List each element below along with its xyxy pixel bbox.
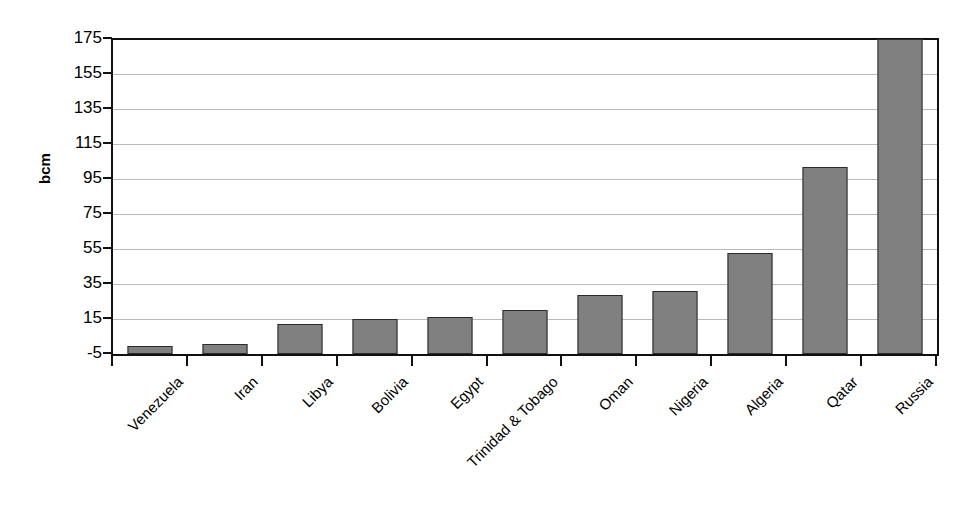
x-tick-mark xyxy=(935,355,937,366)
bar-slot xyxy=(562,39,637,354)
x-tick-mark xyxy=(411,355,413,366)
x-tick-mark xyxy=(785,355,787,366)
bar-slot xyxy=(637,39,712,354)
x-tick-label: Russia xyxy=(891,373,935,417)
bar[interactable] xyxy=(428,317,473,354)
bar[interactable] xyxy=(278,324,323,354)
bar[interactable] xyxy=(128,346,173,354)
x-tick-mark xyxy=(635,355,637,366)
x-tick-label: Bolivia xyxy=(368,373,411,416)
x-tick-label: Qatar xyxy=(822,373,861,412)
x-tick-label: Algeria xyxy=(741,373,786,418)
bar[interactable] xyxy=(802,167,847,354)
bar-chart: bcm 1751551351159575553515-5 VenezuelaIr… xyxy=(0,0,959,522)
x-tick-mark xyxy=(111,355,113,366)
bar[interactable] xyxy=(502,310,547,354)
x-tick-label: Libya xyxy=(299,373,336,410)
x-axis-ticks xyxy=(111,355,935,367)
bar[interactable] xyxy=(652,291,697,354)
bar-slot xyxy=(862,39,937,354)
x-tick-label: Oman xyxy=(595,373,636,414)
x-axis-tick-labels: VenezuelaIranLibyaBoliviaEgyptTrinidad &… xyxy=(111,367,935,507)
bar-slot xyxy=(712,39,787,354)
bar-slot xyxy=(413,39,488,354)
bar[interactable] xyxy=(577,295,622,355)
x-tick-mark xyxy=(336,355,338,366)
bar[interactable] xyxy=(203,344,248,354)
bar-slot xyxy=(188,39,263,354)
x-tick-mark xyxy=(710,355,712,366)
bar-slot xyxy=(263,39,338,354)
bar[interactable] xyxy=(727,253,772,355)
x-tick-mark xyxy=(261,355,263,366)
bar-slot xyxy=(488,39,563,354)
x-tick-label: Iran xyxy=(231,373,261,403)
x-tick-mark xyxy=(486,355,488,366)
bar-slot xyxy=(113,39,188,354)
x-tick-label: Nigeria xyxy=(665,373,711,419)
x-tick-mark xyxy=(560,355,562,366)
bar[interactable] xyxy=(877,39,922,354)
x-tick-mark xyxy=(860,355,862,366)
bar-slot xyxy=(338,39,413,354)
bar-slot xyxy=(787,39,862,354)
x-tick-label: Egypt xyxy=(447,373,486,412)
x-tick-label: Venezuela xyxy=(125,373,187,435)
bar[interactable] xyxy=(353,319,398,354)
plot-area xyxy=(111,38,939,356)
x-tick-mark xyxy=(186,355,188,366)
